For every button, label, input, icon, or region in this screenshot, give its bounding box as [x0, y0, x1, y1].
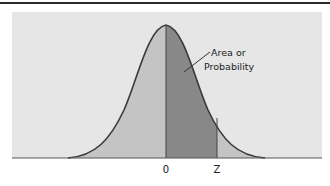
- annotation-line1: Area or: [211, 47, 246, 58]
- tick-label-z: Z: [214, 164, 221, 175]
- tick-label-zero: 0: [163, 164, 169, 175]
- annotation-line2: Probability: [204, 61, 255, 72]
- normal-curve-chart: Area or Probability 0 Z: [0, 0, 330, 186]
